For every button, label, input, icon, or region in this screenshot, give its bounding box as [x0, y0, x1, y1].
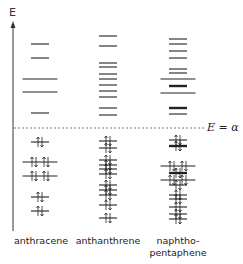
- occupied-level: [31, 137, 49, 147]
- molecule-column-anthracene: [23, 44, 58, 216]
- occupied-level: [99, 180, 117, 190]
- occupied-level: [169, 209, 187, 219]
- occupied-level: [99, 185, 117, 195]
- occupied-level: [99, 136, 117, 146]
- occupied-level: [169, 180, 187, 190]
- occupied-level: [23, 157, 58, 167]
- molecule-label-naphthopentaphene: naphtho- pentaphene: [148, 235, 208, 259]
- reference-line-label: E = α: [207, 121, 239, 134]
- occupied-level: [161, 175, 196, 185]
- molecule-label-anthracene: anthracene: [13, 235, 69, 247]
- occupied-level: [31, 206, 49, 216]
- occupied-level: [169, 214, 187, 224]
- energy-axis: [11, 21, 16, 231]
- molecule-column-naphthopentaphene: [161, 39, 196, 224]
- molecule-column-anthanthrene: [99, 36, 117, 223]
- occupied-level: [169, 141, 187, 151]
- occupied-level: [99, 190, 117, 200]
- occupied-level: [99, 155, 117, 165]
- axis-arrow-icon: [11, 21, 16, 28]
- orbital-levels: [23, 36, 196, 224]
- occupied-level: [31, 192, 49, 202]
- occupied-level: [161, 161, 196, 171]
- occupied-level: [99, 213, 117, 223]
- occupied-level: [99, 169, 117, 179]
- molecule-label-anthanthrene: anthanthrene: [74, 235, 142, 247]
- occupied-level: [169, 202, 187, 212]
- occupied-level: [99, 143, 117, 153]
- axis-label: E: [9, 6, 16, 19]
- occupied-level: [169, 135, 187, 145]
- occupied-level: [23, 171, 58, 181]
- occupied-level: [99, 200, 117, 210]
